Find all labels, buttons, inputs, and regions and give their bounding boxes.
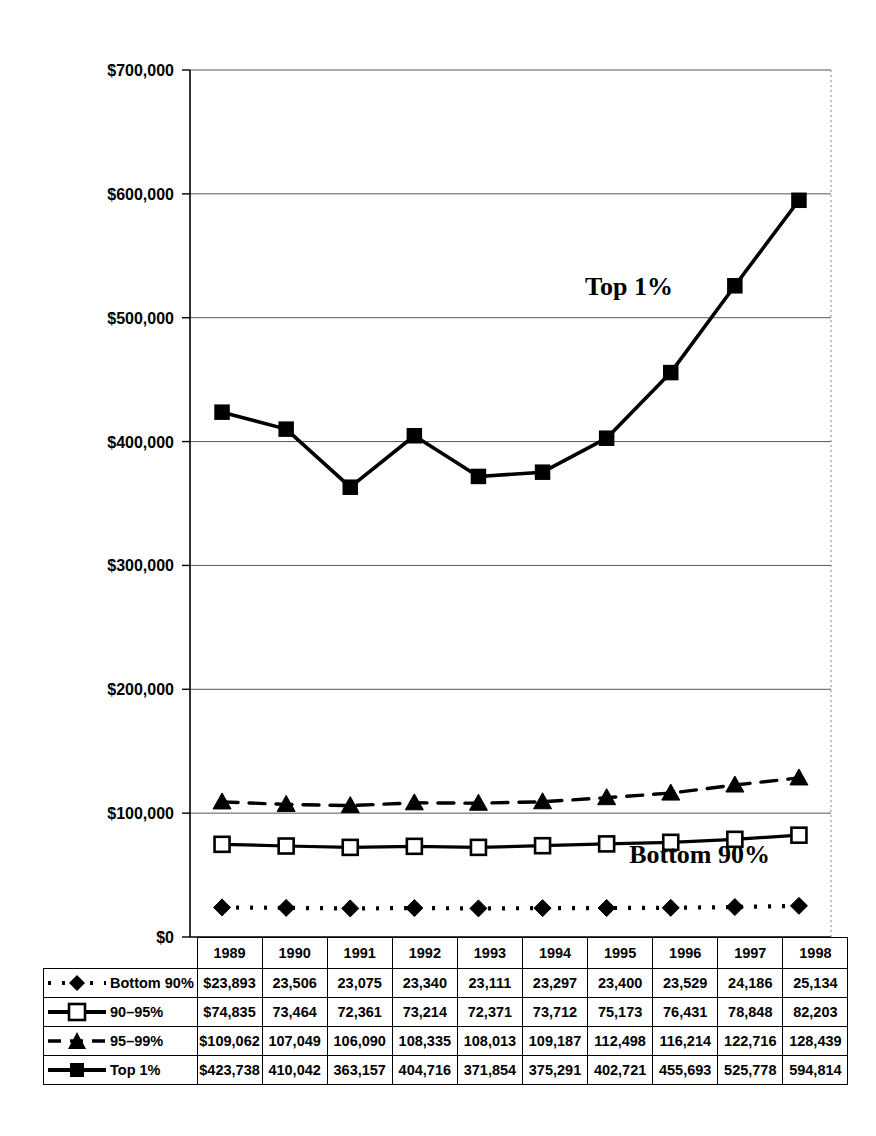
data-point-filled-diamond (406, 900, 423, 917)
data-point-filled-square (536, 465, 550, 479)
table-cell: $74,835 (197, 998, 262, 1027)
table-cell: 73,214 (392, 998, 457, 1027)
table-column-header-1995: 1995 (588, 938, 653, 969)
table-row: 95–99%$109,062107,049106,090108,335108,0… (44, 1027, 848, 1056)
table-cell: 23,400 (588, 969, 653, 998)
table-cell: $423,738 (197, 1056, 262, 1085)
y-axis-tick-label: $100,000 (107, 805, 174, 822)
data-point-filled-diamond (726, 899, 743, 916)
data-point-filled-square (792, 193, 806, 207)
table-row: 90–95%$74,83573,46472,36173,21472,37173,… (44, 998, 848, 1027)
table-row: Bottom 90%$23,89323,50623,07523,34023,11… (44, 969, 848, 998)
legend-cell-top-1: Top 1% (44, 1056, 198, 1085)
table-cell: $23,893 (197, 969, 262, 998)
series-line (222, 200, 799, 487)
table-cell: 363,157 (327, 1056, 392, 1085)
table-column-header-1990: 1990 (262, 938, 327, 969)
table-cell: 375,291 (522, 1056, 587, 1085)
legend-marker-filled-square (46, 1058, 108, 1082)
table-cell: 404,716 (392, 1056, 457, 1085)
table-cell: 116,214 (653, 1027, 718, 1056)
y-axis-tick-label: $600,000 (107, 186, 174, 203)
table-cell: 82,203 (783, 998, 848, 1027)
table-cell: 402,721 (588, 1056, 653, 1085)
table-cell: 107,049 (262, 1027, 327, 1056)
table-cell: 76,431 (653, 998, 718, 1027)
y-axis-tick-label: $200,000 (107, 681, 174, 698)
data-point-filled-diamond (470, 900, 487, 917)
table-cell: 75,173 (588, 998, 653, 1027)
table-cell: 24,186 (718, 969, 783, 998)
legend-marker-filled-triangle (46, 1029, 108, 1053)
table-body: Bottom 90%$23,89323,50623,07523,34023,11… (44, 969, 848, 1085)
data-point-filled-square (728, 279, 742, 293)
data-point-filled-diamond (214, 899, 231, 916)
legend-label: 95–99% (108, 1027, 163, 1055)
table-cell: 594,814 (783, 1056, 848, 1085)
data-point-filled-square (279, 422, 293, 436)
chart-page: $0$100,000$200,000$300,000$400,000$500,0… (0, 0, 876, 1136)
legend-cell-90-95: 90–95% (44, 998, 198, 1027)
data-point-filled-square (664, 366, 678, 380)
series-group (213, 193, 808, 917)
table-header: 1989199019911992199319941995199619971998 (44, 938, 848, 969)
table-cell: $109,062 (197, 1027, 262, 1056)
legend-label: Bottom 90% (108, 969, 194, 997)
table-column-header-1996: 1996 (653, 938, 718, 969)
data-point-open-square (599, 836, 614, 851)
data-point-open-square (279, 839, 294, 854)
data-point-open-square (791, 828, 806, 843)
table-column-header-1998: 1998 (783, 938, 848, 969)
data-point-open-square (407, 839, 422, 854)
table-cell: 371,854 (457, 1056, 522, 1085)
table-cell: 109,187 (522, 1027, 587, 1056)
table-cell: 108,013 (457, 1027, 522, 1056)
series-line (222, 778, 799, 806)
table-cell: 23,111 (457, 969, 522, 998)
table-cell: 25,134 (783, 969, 848, 998)
legend-label: Top 1% (108, 1056, 160, 1084)
table-cell: 78,848 (718, 998, 783, 1027)
annotation-label: Bottom 90% (629, 840, 770, 869)
table-column-header-1993: 1993 (457, 938, 522, 969)
data-point-open-square (343, 840, 358, 855)
line-chart: $0$100,000$200,000$300,000$400,000$500,0… (0, 0, 876, 945)
series-line (222, 906, 799, 909)
table-row: Top 1%$423,738410,042363,157404,716371,8… (44, 1056, 848, 1085)
table-cell: 455,693 (653, 1056, 718, 1085)
data-point-filled-diamond (662, 899, 679, 916)
data-point-filled-square (471, 469, 485, 483)
table-column-header-1997: 1997 (718, 938, 783, 969)
table-column-header-1992: 1992 (392, 938, 457, 969)
legend-marker-open-square (46, 1000, 108, 1024)
data-table: 1989199019911992199319941995199619971998… (43, 937, 848, 1085)
annotation-label: Top 1% (585, 272, 673, 301)
data-point-open-square (215, 837, 230, 852)
table-cell: 106,090 (327, 1027, 392, 1056)
table-cell: 23,506 (262, 969, 327, 998)
table-cell: 112,498 (588, 1027, 653, 1056)
table-cell: 23,075 (327, 969, 392, 998)
table-cell: 410,042 (262, 1056, 327, 1085)
data-point-filled-square (215, 405, 229, 419)
table-cell: 128,439 (783, 1027, 848, 1056)
legend-marker-filled-diamond (46, 971, 108, 995)
data-point-open-square (535, 838, 550, 853)
series-bottom-90 (214, 897, 808, 917)
data-point-filled-diamond (534, 900, 551, 917)
table-cell: 23,529 (653, 969, 718, 998)
data-point-filled-square (600, 431, 614, 445)
table-cell: 73,464 (262, 998, 327, 1027)
legend-header-cell (44, 938, 198, 969)
data-point-filled-diamond (790, 897, 807, 914)
y-axis-tick-label: $400,000 (107, 434, 174, 451)
table-cell: 72,361 (327, 998, 392, 1027)
series-95-99 (213, 769, 808, 813)
y-axis-tick-label: $500,000 (107, 310, 174, 327)
data-point-filled-diamond (598, 900, 615, 917)
data-point-filled-diamond (342, 900, 359, 917)
table-header-row: 1989199019911992199319941995199619971998 (44, 938, 848, 969)
legend-cell-95-99: 95–99% (44, 1027, 198, 1056)
y-axis-tick-label: $700,000 (107, 62, 174, 79)
data-point-filled-square (407, 429, 421, 443)
